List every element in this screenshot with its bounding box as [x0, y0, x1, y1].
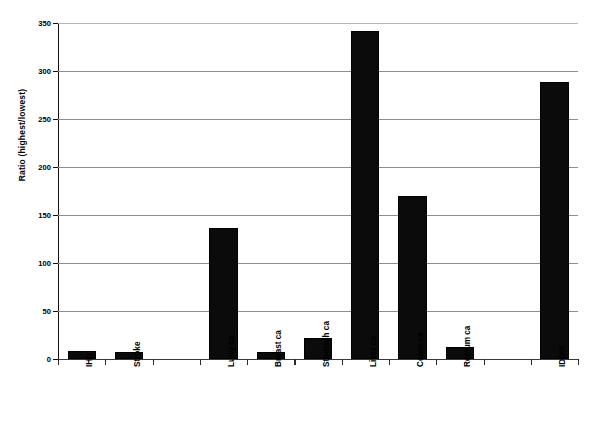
gridline [58, 263, 578, 264]
y-axis-tick [53, 215, 58, 216]
y-axis-tick-label: 300 [38, 67, 51, 76]
y-axis-tick-label: 350 [38, 19, 51, 28]
y-axis-tick [53, 119, 58, 120]
y-axis-tick [53, 311, 58, 312]
y-axis-tick-label: 50 [43, 307, 51, 316]
x-axis-tick [58, 359, 59, 365]
x-axis-tick-label: Stomach ca [322, 321, 331, 367]
x-axis-tick [484, 359, 485, 365]
x-axis-tick-label: Breast ca [274, 330, 283, 367]
x-axis-tick [531, 359, 532, 365]
gridline [58, 71, 578, 72]
bar [351, 31, 379, 359]
x-axis-tick-label: Rectum ca [463, 326, 472, 367]
x-axis-tick-label: Stroke [133, 342, 142, 367]
x-axis-tick [294, 359, 295, 365]
x-axis-tick-label: Lung ca [227, 336, 236, 367]
y-axis-tick [53, 263, 58, 264]
x-axis-tick [578, 359, 579, 365]
x-axis-tick [153, 359, 154, 365]
y-axis-tick [53, 167, 58, 168]
y-axis-tick-label: 150 [38, 211, 51, 220]
y-axis-tick-label: 200 [38, 163, 51, 172]
gridline [58, 23, 578, 24]
gridline [58, 215, 578, 216]
x-axis-tick [200, 359, 201, 365]
y-axis-tick [53, 23, 58, 24]
gridline [58, 119, 578, 120]
x-axis-tick-label: IDDM [558, 346, 567, 367]
bar-chart: Ratio (highest/lowest) 05010015020025030… [0, 0, 592, 432]
y-axis-title: Ratio (highest/lowest) [17, 55, 27, 215]
y-axis-tick-label: 0 [47, 355, 51, 364]
gridline [58, 311, 578, 312]
y-axis-line [58, 23, 59, 359]
x-axis-tick-label: Colon ca [416, 332, 425, 367]
plot-area: 050100150200250300350 IHDStrokeLung caBr… [58, 23, 578, 359]
x-axis-tick [436, 359, 437, 365]
gridline [58, 167, 578, 168]
y-axis-tick-label: 250 [38, 115, 51, 124]
x-axis-tick [247, 359, 248, 365]
x-axis-tick [105, 359, 106, 365]
x-axis-tick [389, 359, 390, 365]
x-axis-tick-label: IHD [85, 353, 94, 367]
x-axis-tick-label: Liver ca [369, 336, 378, 367]
bar [540, 82, 568, 359]
y-axis-tick [53, 71, 58, 72]
x-axis-tick [342, 359, 343, 365]
y-axis-tick-label: 100 [38, 259, 51, 268]
